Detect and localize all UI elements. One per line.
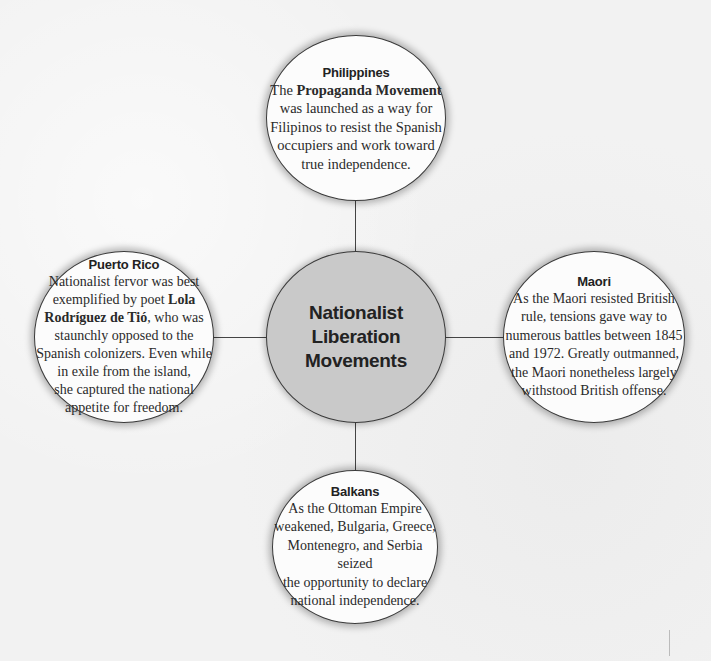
body-line: staunchly opposed to the: [55, 328, 194, 343]
central-topic-line-3: Movements: [305, 349, 407, 373]
body-line: Nationalist fervor was best: [49, 274, 199, 289]
body-line: Spanish colonizers. Even while: [36, 346, 212, 361]
node-title: Balkans: [331, 484, 379, 499]
body-line: Filipinos to resist the Spanish: [270, 119, 442, 135]
body-line: withstood British offense.: [522, 383, 667, 398]
body-line: she captured the national: [54, 382, 194, 397]
connector-right: [445, 337, 505, 338]
body-line: Montenegro, and Serbia seized: [288, 538, 423, 572]
body-line: weakened, Bulgaria, Greece,: [274, 519, 435, 534]
node-balkans: Balkans As the Ottoman Empire weakened, …: [272, 470, 438, 624]
connector-left: [212, 337, 268, 338]
node-title: Philippines: [322, 65, 389, 80]
body-line: Rodríguez de Tió, who was: [44, 310, 203, 325]
body-line: in exile from the island,: [57, 364, 190, 379]
body-line: As the Ottoman Empire: [288, 501, 421, 516]
connector-top: [355, 200, 356, 252]
bold-term: Lola: [168, 292, 195, 307]
body-line: the opportunity to declare: [283, 575, 427, 590]
central-topic-line-2: Liberation: [312, 325, 401, 349]
body-line: the Maori nonetheless largely: [511, 365, 677, 380]
body-line: appetite for freedom.: [65, 400, 183, 415]
bold-term: Rodríguez de Tió: [44, 310, 147, 325]
node-title: Puerto Rico: [89, 257, 160, 272]
node-puerto-rico: Puerto Rico Nationalist fervor was best …: [34, 251, 214, 423]
node-body: As the Ottoman Empire weakened, Bulgaria…: [273, 500, 437, 611]
node-maori: Maori As the Maori resisted British rule…: [503, 251, 685, 423]
page-edge-mark: [669, 630, 670, 656]
connector-bottom: [355, 422, 356, 472]
body-line: numerous battles between 1845: [506, 328, 683, 343]
body-line: occupiers and work toward: [277, 137, 434, 153]
body-line: As the Maori resisted British: [513, 291, 675, 306]
body-line: rule, tensions gave way to: [521, 309, 667, 324]
central-topic-circle: Nationalist Liberation Movements: [266, 251, 446, 423]
body-line: and 1972. Greatly outmanned,: [509, 346, 679, 361]
body-line: was launched as a way for: [280, 100, 433, 116]
body-line: national independence.: [290, 593, 419, 608]
node-body: The Propaganda Movement was launched as …: [270, 81, 442, 174]
node-title: Maori: [577, 274, 611, 289]
body-line: exemplified by poet Lola: [53, 292, 196, 307]
node-philippines: Philippines The Propaganda Movement was …: [266, 35, 446, 201]
central-topic-line-1: Nationalist: [309, 301, 403, 325]
body-line: true independence.: [301, 156, 411, 172]
node-body: As the Maori resisted British rule, tens…: [506, 290, 683, 401]
body-text: The: [270, 82, 296, 98]
node-body: Nationalist fervor was best exemplified …: [36, 273, 212, 417]
bold-term: Propaganda Movement: [297, 82, 442, 98]
